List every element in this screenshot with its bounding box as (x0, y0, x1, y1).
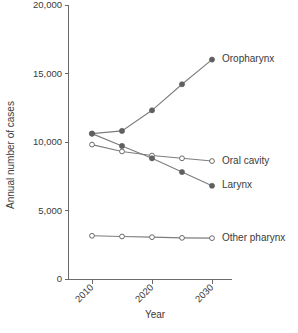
data-point-larynx-2030 (209, 183, 214, 188)
y-axis-title: Annual number of cases (5, 101, 16, 209)
data-point-other-pharynx-2010 (90, 233, 95, 238)
series-line-oropharynx (92, 60, 212, 134)
y-tick-label: 5,000 (38, 205, 62, 216)
series-label-oral-cavity: Oral cavity (222, 155, 269, 166)
data-point-larynx-2025 (179, 169, 184, 174)
chart-series-labels: OropharynxOral cavityLarynxOther pharynx (222, 53, 285, 243)
data-point-oral-cavity-2010 (90, 142, 95, 147)
x-tick-label: 2010 (73, 282, 96, 305)
data-point-larynx-2015 (119, 143, 124, 148)
series-label-other-pharynx: Other pharynx (222, 232, 285, 243)
data-point-oropharynx-2030 (209, 57, 214, 62)
y-tick-label: 15,000 (33, 68, 62, 79)
data-point-other-pharynx-2025 (180, 235, 185, 240)
line-chart: 05,00010,00015,00020,000201020202030 Oro… (0, 0, 298, 333)
data-point-oral-cavity-2025 (180, 156, 185, 161)
data-point-other-pharynx-2015 (120, 234, 125, 239)
x-axis-title: Year (145, 309, 166, 320)
series-label-oropharynx: Oropharynx (222, 53, 274, 64)
y-tick-label: 20,000 (33, 0, 62, 10)
data-point-oropharynx-2025 (179, 82, 184, 87)
x-tick-label: 2030 (193, 282, 216, 305)
data-point-oral-cavity-2015 (120, 149, 125, 154)
data-point-larynx-2010 (89, 131, 94, 136)
data-point-other-pharynx-2020 (150, 235, 155, 240)
x-tick-label: 2020 (133, 282, 156, 305)
data-point-oropharynx-2015 (119, 128, 124, 133)
y-tick-label: 10,000 (33, 136, 62, 147)
chart-series (89, 57, 214, 241)
chart-axes: 05,00010,00015,00020,000201020202030 (33, 0, 232, 304)
data-point-oral-cavity-2030 (210, 159, 215, 164)
data-point-other-pharynx-2030 (210, 236, 215, 241)
series-label-larynx: Larynx (222, 179, 252, 190)
chart-container: 05,00010,00015,00020,000201020202030 Oro… (0, 0, 298, 333)
data-point-larynx-2020 (149, 156, 154, 161)
data-point-oropharynx-2020 (149, 108, 154, 113)
y-tick-label: 0 (57, 273, 62, 284)
